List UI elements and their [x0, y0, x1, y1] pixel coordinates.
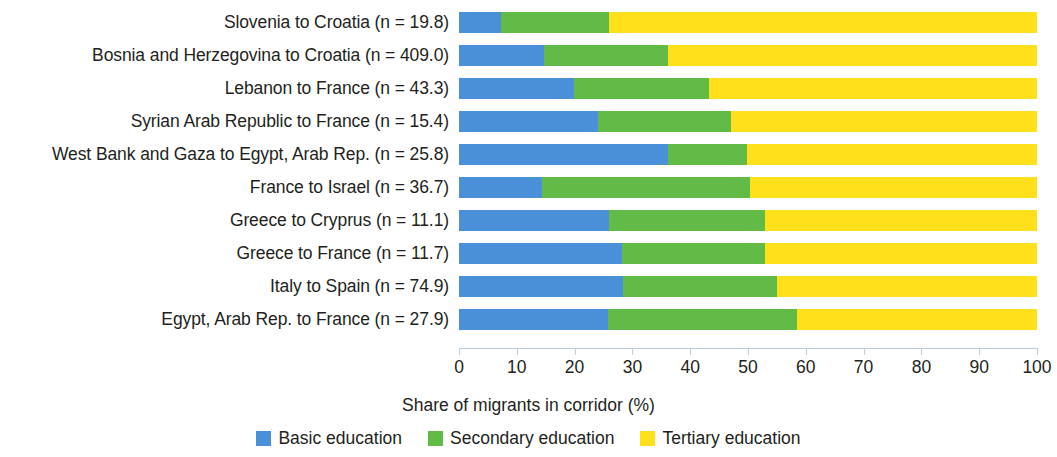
chart-row: West Bank and Gaza to Egypt, Arab Rep. (…: [0, 138, 1057, 171]
chart-row: Greece to France (n = 11.7): [0, 237, 1057, 270]
corridor-label: Greece to France (n = 11.7): [237, 237, 449, 270]
legend-swatch-icon: [428, 431, 443, 446]
x-tick: [1037, 348, 1038, 355]
x-tick-label: 40: [660, 357, 720, 378]
bar-segment-secondary-education: [501, 12, 609, 33]
chart-legend: Basic educationSecondary educationTertia…: [0, 428, 1057, 449]
bar-segment-tertiary-education: [750, 177, 1037, 198]
bar-segment-tertiary-education: [709, 78, 1037, 99]
x-tick-label: 10: [487, 357, 547, 378]
legend-item: Tertiary education: [640, 428, 800, 449]
corridor-label: Egypt, Arab Rep. to France (n = 27.9): [161, 303, 449, 336]
bar-segment-tertiary-education: [609, 12, 1037, 33]
bar-segment-secondary-education: [622, 243, 765, 264]
bar-segment-tertiary-education: [777, 276, 1037, 297]
stacked-bar-chart: Slovenia to Croatia (n = 19.8)Bosnia and…: [0, 0, 1057, 457]
legend-swatch-icon: [640, 431, 655, 446]
corridor-label: France to Israel (n = 36.7): [250, 171, 449, 204]
chart-row: Bosnia and Herzegovina to Croatia (n = 4…: [0, 39, 1057, 72]
x-tick: [748, 348, 749, 355]
x-tick-label: 100: [1007, 357, 1057, 378]
stacked-bar: [459, 210, 1037, 231]
legend-item: Basic education: [256, 428, 402, 449]
corridor-label: Bosnia and Herzegovina to Croatia (n = 4…: [92, 39, 449, 72]
bar-segment-basic-education: [459, 243, 622, 264]
bar-segment-basic-education: [459, 276, 623, 297]
stacked-bar: [459, 309, 1037, 330]
bar-segment-basic-education: [459, 309, 608, 330]
stacked-bar: [459, 243, 1037, 264]
legend-label: Tertiary education: [662, 428, 800, 449]
x-axis-title: Share of migrants in corridor (%): [0, 395, 1057, 416]
corridor-label: West Bank and Gaza to Egypt, Arab Rep. (…: [52, 138, 449, 171]
corridor-label: Syrian Arab Republic to France (n = 15.4…: [131, 105, 449, 138]
bar-segment-tertiary-education: [765, 210, 1037, 231]
corridor-label: Greece to Cryprus (n = 11.1): [230, 204, 449, 237]
chart-row: Lebanon to France (n = 43.3): [0, 72, 1057, 105]
x-tick: [921, 348, 922, 355]
corridor-label: Slovenia to Croatia (n = 19.8): [224, 6, 449, 39]
stacked-bar: [459, 177, 1037, 198]
corridor-label: Lebanon to France (n = 43.3): [225, 72, 449, 105]
chart-row: Egypt, Arab Rep. to France (n = 27.9): [0, 303, 1057, 336]
bar-segment-basic-education: [459, 144, 668, 165]
legend-label: Secondary education: [450, 428, 614, 449]
x-tick-label: 20: [545, 357, 605, 378]
bar-segment-basic-education: [459, 12, 501, 33]
x-tick: [864, 348, 865, 355]
bar-segment-basic-education: [459, 177, 542, 198]
x-tick-label: 60: [776, 357, 836, 378]
x-tick-label: 90: [949, 357, 1009, 378]
stacked-bar: [459, 276, 1037, 297]
legend-label: Basic education: [278, 428, 402, 449]
x-tick: [517, 348, 518, 355]
bar-segment-secondary-education: [623, 276, 777, 297]
x-axis-title-text: Share of migrants in corridor (%): [402, 395, 655, 416]
x-tick-label: 0: [429, 357, 489, 378]
bar-segment-secondary-education: [608, 309, 796, 330]
x-tick-label: 50: [718, 357, 778, 378]
stacked-bar: [459, 111, 1037, 132]
bar-segment-tertiary-education: [668, 45, 1037, 66]
bar-segment-basic-education: [459, 78, 574, 99]
x-tick-label: 30: [602, 357, 662, 378]
bar-segment-basic-education: [459, 45, 544, 66]
bar-segment-secondary-education: [668, 144, 747, 165]
x-tick: [632, 348, 633, 355]
bar-segment-tertiary-education: [765, 243, 1037, 264]
chart-row: Greece to Cryprus (n = 11.1): [0, 204, 1057, 237]
chart-row: Slovenia to Croatia (n = 19.8): [0, 6, 1057, 39]
stacked-bar: [459, 144, 1037, 165]
bar-segment-secondary-education: [542, 177, 750, 198]
x-tick-label: 70: [834, 357, 894, 378]
x-tick: [459, 348, 460, 355]
x-tick: [806, 348, 807, 355]
x-tick: [690, 348, 691, 355]
bar-segment-tertiary-education: [747, 144, 1037, 165]
chart-row: Syrian Arab Republic to France (n = 15.4…: [0, 105, 1057, 138]
corridor-label: Italy to Spain (n = 74.9): [270, 270, 449, 303]
chart-row: Italy to Spain (n = 74.9): [0, 270, 1057, 303]
x-tick: [979, 348, 980, 355]
legend-swatch-icon: [256, 431, 271, 446]
x-tick: [575, 348, 576, 355]
plot-area: Slovenia to Croatia (n = 19.8)Bosnia and…: [0, 0, 1057, 348]
legend-item: Secondary education: [428, 428, 614, 449]
bar-segment-tertiary-education: [731, 111, 1037, 132]
bar-segment-basic-education: [459, 111, 598, 132]
x-tick-label: 80: [891, 357, 951, 378]
chart-row: France to Israel (n = 36.7): [0, 171, 1057, 204]
bar-segment-secondary-education: [574, 78, 709, 99]
stacked-bar: [459, 12, 1037, 33]
bar-segment-secondary-education: [609, 210, 765, 231]
bar-segment-tertiary-education: [797, 309, 1037, 330]
bar-segment-secondary-education: [544, 45, 668, 66]
stacked-bar: [459, 78, 1037, 99]
stacked-bar: [459, 45, 1037, 66]
bar-segment-basic-education: [459, 210, 609, 231]
bar-segment-secondary-education: [598, 111, 731, 132]
